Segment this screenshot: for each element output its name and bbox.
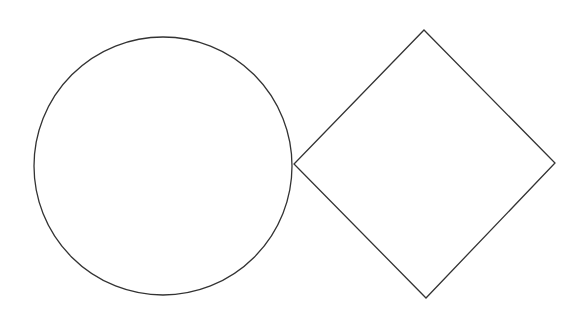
circle-shape (34, 37, 292, 295)
diagram-canvas (0, 0, 588, 326)
diamond-shape (294, 30, 555, 298)
